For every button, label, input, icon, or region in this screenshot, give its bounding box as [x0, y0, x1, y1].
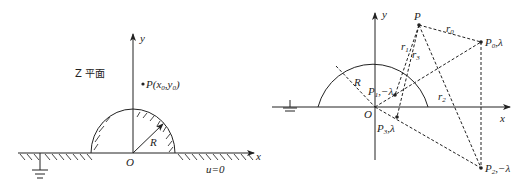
right-origin-label: O	[364, 108, 372, 120]
ground-hatching	[20, 154, 253, 160]
right-y-label: y	[381, 8, 387, 20]
boundary-label: u=0	[206, 163, 225, 175]
left-point-p	[141, 82, 144, 85]
point-p3	[395, 115, 399, 119]
left-x-label: x	[255, 150, 261, 162]
right-x-label: x	[499, 112, 505, 124]
right-ground-symbol-icon	[283, 100, 297, 111]
left-y-label: y	[139, 32, 145, 44]
label-p1: P1,−λ	[367, 85, 393, 99]
label-p2: P2,−λ	[484, 162, 510, 176]
label-r0: r0	[446, 22, 454, 36]
point-p	[417, 23, 421, 27]
point-p-label: P(x0,y0)	[145, 78, 180, 92]
left-origin-label: O	[126, 156, 134, 168]
point-p1	[393, 93, 397, 97]
left-radius-label: R	[149, 136, 157, 148]
label-p: P	[413, 10, 421, 22]
label-r1: r1	[401, 40, 409, 54]
label-r2: r2	[438, 90, 446, 104]
diagram-canvas: Z 平面 y x O R u=0 P(x0,y0)	[0, 0, 524, 190]
point-p2	[479, 166, 483, 170]
left-radius-arrow	[133, 124, 163, 153]
right-radius-label: R	[353, 76, 361, 88]
point-p0	[479, 40, 483, 44]
label-p0: P0,λ	[484, 36, 503, 50]
right-figure: y x O R P P0,λ P1,−λ P2,−λ P3,λ r0 r1 r2…	[272, 8, 510, 176]
left-figure: Z 平面 y x O R u=0 P(x0,y0)	[18, 32, 261, 178]
label-p3: P3,λ	[376, 122, 395, 136]
plane-label: Z 平面	[75, 68, 105, 79]
ground-symbol-icon	[32, 153, 48, 178]
label-r3: r3	[412, 48, 420, 62]
